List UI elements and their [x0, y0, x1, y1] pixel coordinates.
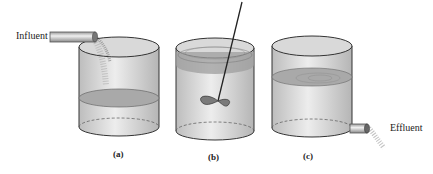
effluent-pipe: [350, 124, 384, 148]
caption-c: (c): [303, 151, 313, 161]
influent-pipe: [50, 32, 98, 42]
tank-c: [272, 36, 352, 137]
tank-a: [79, 37, 159, 136]
tank-diagram: [0, 0, 433, 174]
effluent-label: Effluent: [390, 122, 423, 133]
caption-b: (b): [208, 152, 219, 162]
tank-b: [176, 2, 254, 140]
influent-label: Influent: [16, 30, 48, 41]
caption-a: (a): [113, 149, 124, 159]
